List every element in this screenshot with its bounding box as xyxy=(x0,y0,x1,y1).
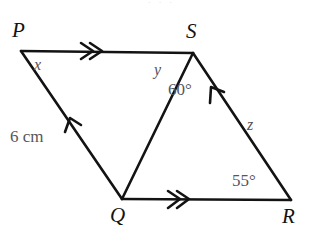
angle-label-55: 55° xyxy=(232,172,256,189)
angle-label-x: x xyxy=(34,57,41,73)
side-label-z: z xyxy=(247,117,253,133)
geometry-figure: · · · P S Q R x y 60° 55° z 6 xyxy=(0,0,312,241)
segment-pq xyxy=(21,51,122,199)
vertex-label-r: R xyxy=(282,206,295,227)
side-label-6cm: 6 cm xyxy=(10,128,44,145)
vertex-label-q: Q xyxy=(110,205,125,226)
angle-label-y: y xyxy=(154,62,161,78)
segment-ps xyxy=(21,51,193,53)
angle-label-60: 60° xyxy=(168,81,192,98)
vertex-label-s: S xyxy=(186,21,197,42)
segment-qr xyxy=(122,199,291,200)
vertex-label-p: P xyxy=(12,20,25,41)
geometry-canvas xyxy=(0,0,312,241)
